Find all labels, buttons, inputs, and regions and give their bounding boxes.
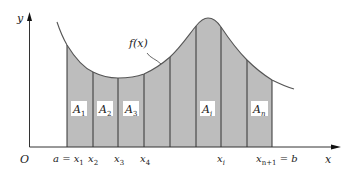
tick-label-xi: xi (217, 153, 225, 167)
tick-label-x3: x3 (114, 153, 124, 167)
y-axis-arrow-icon (27, 12, 32, 21)
curve-label: f(x) (128, 37, 148, 50)
origin-label: O (20, 153, 29, 166)
tick-label-a-x1: a = x1 (53, 153, 84, 167)
fx-leader-line (147, 53, 161, 64)
strip-label-a2: A2 (97, 101, 113, 118)
tick-label-x4: x4 (140, 153, 151, 167)
riemann-sum-diagram: y x O f(x) A1 A2 A3 Ai An a = x1 x2 x3 x… (0, 0, 354, 176)
tick-label-x2: x2 (88, 153, 98, 167)
strip-label-a1: A1 (71, 101, 87, 118)
y-axis-label: y (16, 12, 24, 25)
x-axis-arrow-icon (331, 145, 341, 150)
tick-label-xn1-b: xn+1 = b (256, 153, 298, 167)
strip-label-ai: Ai (200, 101, 215, 118)
strip-label-a3: A3 (123, 101, 139, 118)
strip-label-an: An (251, 101, 268, 118)
x-axis-label: x (325, 153, 332, 166)
